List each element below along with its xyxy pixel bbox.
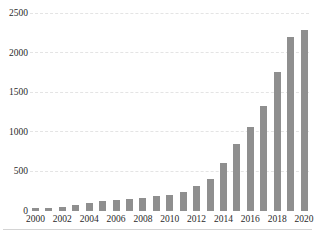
- y-tick-label-1000: 1000: [0, 126, 28, 138]
- bar-2011: [180, 192, 187, 211]
- bar-2009: [153, 196, 160, 211]
- x-tick-label-2016: 2016: [236, 214, 264, 225]
- bar-2005: [99, 201, 106, 211]
- bar-chart-figure: 0500100015002000250020002002200420062008…: [0, 0, 314, 233]
- bar-2006: [113, 200, 120, 211]
- bar-2000: [32, 208, 39, 211]
- gridline-2500: [30, 13, 309, 14]
- bar-2010: [166, 195, 173, 211]
- bar-2012: [193, 186, 200, 211]
- x-tick-label-2000: 2000: [22, 214, 50, 225]
- bar-2001: [45, 208, 52, 211]
- bar-2019: [287, 37, 294, 211]
- bar-2007: [126, 199, 133, 211]
- x-tick-label-2002: 2002: [48, 214, 76, 225]
- bar-2014: [220, 163, 227, 211]
- gridline-2000: [30, 52, 309, 53]
- y-tick-label-500: 500: [0, 165, 28, 177]
- bar-2008: [139, 198, 146, 211]
- x-tick-label-2008: 2008: [129, 214, 157, 225]
- bar-2016: [247, 127, 254, 211]
- bottom-scan-rule: [3, 229, 312, 230]
- gridline-1500: [30, 92, 309, 93]
- bar-2003: [72, 205, 79, 211]
- y-tick-label-2500: 2500: [0, 7, 28, 19]
- y-tick-label-1500: 1500: [0, 86, 28, 98]
- x-tick-label-2018: 2018: [263, 214, 291, 225]
- x-tick-label-2014: 2014: [209, 214, 237, 225]
- bar-2002: [59, 207, 66, 211]
- x-tick-label-2006: 2006: [102, 214, 130, 225]
- bar-2004: [86, 203, 93, 211]
- bar-2015: [233, 144, 240, 211]
- x-tick-label-2012: 2012: [183, 214, 211, 225]
- x-tick-label-2020: 2020: [290, 214, 314, 225]
- bar-2017: [260, 106, 267, 211]
- x-tick-label-2004: 2004: [75, 214, 103, 225]
- y-tick-label-2000: 2000: [0, 47, 28, 59]
- bar-2018: [274, 72, 281, 211]
- x-tick-label-2010: 2010: [156, 214, 184, 225]
- bar-2020: [301, 30, 308, 211]
- bar-2013: [207, 179, 214, 211]
